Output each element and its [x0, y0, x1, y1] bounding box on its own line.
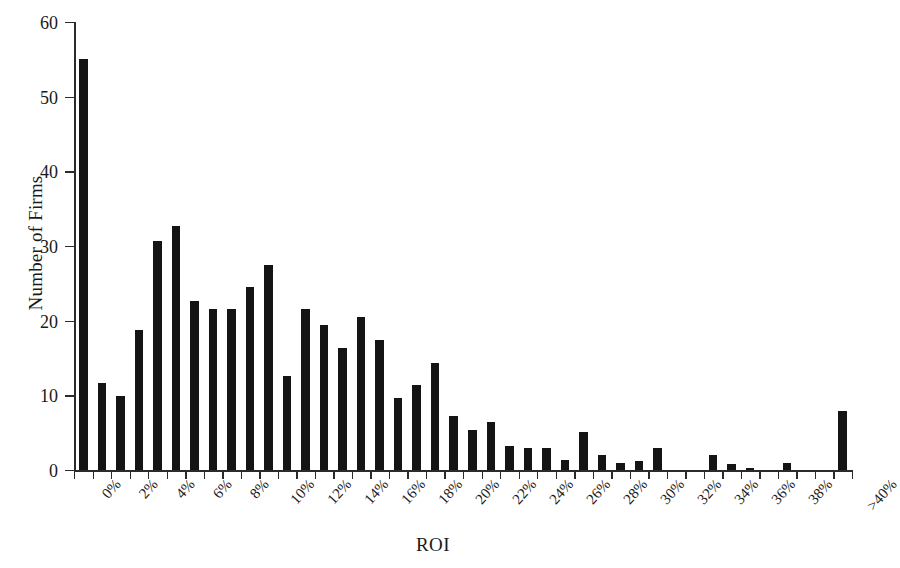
x-tick-label: 32% [694, 476, 725, 508]
bar [505, 446, 514, 470]
bar [320, 325, 329, 470]
bar [579, 432, 588, 470]
bar [264, 265, 273, 470]
bar [246, 287, 255, 470]
y-tick: 20 [65, 321, 74, 322]
bar [153, 241, 162, 470]
bar [542, 448, 551, 470]
bar [394, 398, 403, 470]
bar [838, 411, 847, 470]
x-tick-label: 22% [509, 476, 540, 508]
bar [727, 464, 736, 470]
x-tick-label: 0% [99, 476, 125, 502]
bar [357, 317, 366, 470]
bar-series [74, 22, 852, 470]
bar [227, 309, 236, 470]
x-tick-label: 12% [324, 476, 355, 508]
bar [190, 301, 199, 470]
bar [135, 330, 144, 470]
x-tick-label: 2% [136, 476, 162, 502]
x-axis-tick-labels: 0%2%4%6%8%10%12%14%16%18%20%22%24%26%28%… [74, 476, 852, 536]
bar [98, 383, 107, 470]
y-tick: 10 [65, 395, 74, 396]
bar [616, 463, 625, 470]
y-tick: 0 [65, 470, 74, 471]
bar [487, 422, 496, 470]
bar [301, 309, 310, 470]
bar [375, 340, 384, 470]
y-tick-label: 40 [40, 162, 58, 183]
bar [79, 59, 88, 470]
bar [116, 396, 125, 470]
bar [468, 430, 477, 470]
bar [431, 363, 440, 470]
bar [412, 385, 421, 470]
y-tick: 60 [65, 22, 74, 23]
y-tick-label: 10 [40, 386, 58, 407]
bar [561, 460, 570, 470]
bar [635, 461, 644, 470]
y-tick-label: 20 [40, 311, 58, 332]
x-tick-label: 14% [361, 476, 392, 508]
bar [709, 455, 718, 470]
x-tick-label: 18% [435, 476, 466, 508]
bar [209, 309, 218, 470]
x-tick-label: 30% [657, 476, 688, 508]
x-tick-label: 20% [472, 476, 503, 508]
x-tick-label: 8% [247, 476, 273, 502]
y-tick-label: 0 [49, 461, 58, 482]
x-tick-label: 26% [583, 476, 614, 508]
x-tick-label: 38% [805, 476, 836, 508]
bar [653, 448, 662, 470]
x-tick-label: 24% [546, 476, 577, 508]
x-tick-label: 4% [173, 476, 199, 502]
x-tick-label: 10% [287, 476, 318, 508]
x-tick-label: >40% [864, 476, 900, 514]
bar [598, 455, 607, 470]
x-tick [852, 470, 853, 479]
x-tick-label: 28% [620, 476, 651, 508]
bar [338, 348, 347, 470]
y-tick: 50 [65, 97, 74, 98]
plot-area: 0102030405060 [74, 22, 852, 470]
y-tick: 30 [65, 246, 74, 247]
bar [746, 468, 755, 470]
bar [449, 416, 458, 471]
bar [172, 226, 181, 470]
y-tick-label: 30 [40, 237, 58, 258]
y-tick-label: 50 [40, 87, 58, 108]
bar [283, 376, 292, 470]
y-tick: 40 [65, 171, 74, 172]
y-tick-label: 60 [40, 13, 58, 34]
x-tick-label: 34% [731, 476, 762, 508]
x-tick-label: 36% [768, 476, 799, 508]
x-tick-label: 16% [398, 476, 429, 508]
bar [783, 463, 792, 470]
bar [524, 448, 533, 470]
x-axis-title: ROI [0, 534, 866, 556]
x-tick-label: 6% [210, 476, 236, 502]
